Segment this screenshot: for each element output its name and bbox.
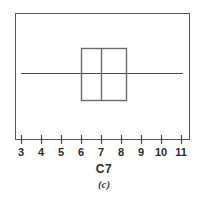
x-axis-tick-label: 8 (118, 146, 124, 158)
x-axis-tick-label: 11 (175, 146, 187, 158)
x-axis-tick-label: 10 (155, 146, 167, 158)
x-axis-tick-label: 9 (138, 146, 144, 158)
x-axis-tick-label: 3 (18, 146, 24, 158)
plot-frame (16, 14, 190, 140)
x-axis-tick-label: 5 (58, 146, 64, 158)
x-axis-tick-label: 7 (98, 146, 104, 158)
x-axis-tick-label: 6 (78, 146, 84, 158)
x-axis-title: C7 (96, 162, 112, 176)
boxplot-figure: 34567891011 C7 (c) (0, 0, 208, 203)
x-axis-tick-label: 4 (38, 146, 44, 158)
box-body (82, 49, 127, 101)
subfigure-caption: (c) (98, 178, 110, 190)
